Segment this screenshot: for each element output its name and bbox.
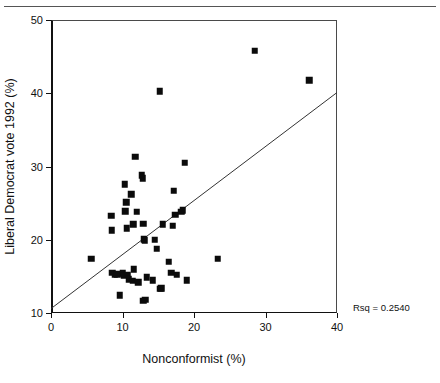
y-axis-tick-label: 20 [31,234,43,245]
data-point [109,227,116,234]
data-point [116,292,123,299]
data-point [88,256,95,263]
data-point [123,199,130,206]
data-point [174,272,181,279]
data-point [181,160,188,167]
data-point [135,279,142,286]
data-point [131,266,138,273]
x-axis-tick [266,313,267,318]
y-axis-tick-label: 30 [31,161,43,172]
x-axis-tick [123,313,124,318]
y-axis-tick-label: 40 [31,88,43,99]
regression-line [51,20,337,313]
data-point [184,277,191,284]
data-point [139,175,146,182]
data-point [142,297,149,304]
data-point [158,285,165,292]
x-axis-tick-label: 10 [116,322,128,333]
data-point [171,187,178,194]
data-point [128,191,135,198]
data-point [149,277,156,284]
x-axis-tick [194,313,195,318]
y-axis-tick [46,20,51,21]
data-point [140,220,147,227]
x-axis-tick-label: 0 [48,322,54,333]
data-point [179,207,186,214]
data-point [166,258,173,265]
y-axis-tick [46,167,51,168]
data-point [122,208,129,215]
rsq-annotation: Rsq = 0.2540 [353,302,410,313]
data-point [159,221,166,228]
data-point [151,237,158,244]
y-axis-tick [46,93,51,94]
x-axis-title: Nonconformist (%) [51,352,337,366]
y-axis-tick-label: 50 [31,15,43,26]
x-axis-tick [337,313,338,318]
y-axis-title: Liberal Democrat vote 1992 (%) [2,20,18,313]
data-point [169,223,176,230]
plot-area: 1020304050010203040 [51,20,337,313]
data-point [156,88,163,95]
x-axis-tick-label: 40 [331,322,343,333]
data-point [252,48,259,55]
y-axis-tick [46,240,51,241]
data-point [134,209,141,216]
data-point [141,237,148,244]
header-divider [4,6,436,7]
x-axis-tick [51,313,52,318]
y-axis-tick-label: 10 [31,308,43,319]
data-point [108,212,115,219]
data-point [130,221,137,228]
data-point [121,181,128,188]
data-point [132,154,139,161]
data-point [154,245,161,252]
data-point [214,256,221,263]
x-axis-tick-label: 30 [259,322,271,333]
chart-figure: 1020304050010203040 Liberal Democrat vot… [0,0,440,383]
data-point [306,77,313,84]
x-axis-tick-label: 20 [188,322,200,333]
